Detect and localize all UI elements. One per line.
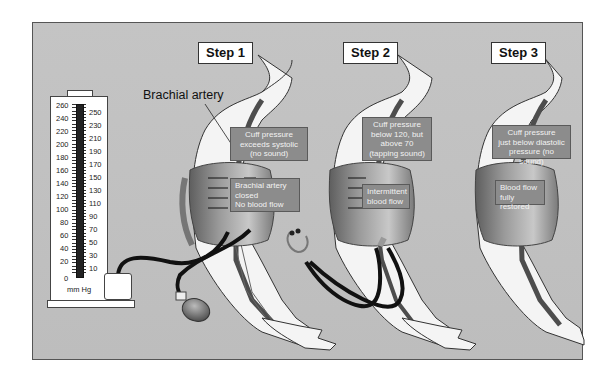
step-2-flow-callout: Intermittent blood flow: [362, 184, 410, 209]
gauge-reservoir: [104, 273, 132, 300]
gauge-unit-label: mm Hg: [67, 285, 91, 294]
step-2-title: Step 2: [343, 42, 398, 64]
step-3-cuff-callout: Cuff pressure just below diastolic press…: [492, 125, 571, 159]
step-1-cuff-callout: Cuff pressure exceeds systolic (no sound…: [230, 127, 308, 161]
brachial-artery-label: Brachial artery: [143, 88, 224, 102]
mercury-column: [76, 104, 84, 278]
step-3-title: Step 3: [491, 42, 546, 64]
step-3-flow-callout: Blood flow fully restored: [495, 180, 545, 205]
bulb-valve: [176, 292, 186, 300]
step-1-flow-callout: Brachial artery closed No blood flow: [230, 178, 300, 212]
step-2-cuff-callout: Cuff pressure below 120, but above 70 (t…: [362, 117, 432, 161]
gauge-base: [47, 300, 135, 308]
step-1-title: Step 1: [198, 42, 253, 64]
